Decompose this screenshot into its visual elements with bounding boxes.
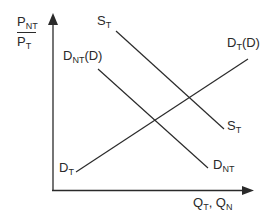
supply-demand-diagram — [0, 0, 272, 220]
x-label-2-base: Q — [216, 195, 226, 210]
label-sub: NT — [72, 55, 84, 65]
supply-tradables-start-label: ST — [97, 14, 111, 27]
demand-nontradables-start-label: DNT(D) — [63, 49, 102, 62]
label-base: D — [63, 48, 72, 63]
label-sub: T — [236, 125, 242, 135]
label-base: D — [213, 157, 222, 172]
y-label-num-base: P — [17, 14, 26, 29]
x-label-separator: , — [209, 195, 216, 210]
label-base: S — [97, 13, 106, 28]
y-axis-arrow-icon — [48, 13, 58, 25]
y-label-num-sub: NT — [26, 21, 38, 31]
label-base: S — [227, 118, 236, 133]
label-sub: T — [68, 167, 74, 177]
x-axis-label: QT, QN — [193, 196, 232, 209]
y-label-den-sub: T — [26, 41, 32, 51]
y-axis-label-denominator: PT — [17, 35, 31, 48]
supply-tradables-end-label: ST — [227, 119, 241, 132]
label-base: D — [59, 160, 68, 175]
label-suffix: (D) — [242, 35, 260, 50]
label-sub: T — [106, 20, 112, 30]
demand-tradables-top-label: DT(D) — [227, 36, 260, 49]
y-axis-label-numerator: PNT — [17, 15, 38, 28]
label-suffix: (D) — [84, 48, 102, 63]
y-label-den-base: P — [17, 34, 26, 49]
label-sub: NT — [222, 164, 234, 174]
demand-nontradables-end-label: DNT — [213, 158, 234, 171]
label-base: D — [227, 35, 236, 50]
demand-tradables-bottom-label: DT — [59, 161, 74, 174]
demand-tradables-curve — [76, 59, 248, 172]
x-axis-arrow-icon — [242, 186, 254, 195]
y-axis-fraction-bar — [17, 32, 36, 33]
x-label-1-base: Q — [193, 195, 203, 210]
x-label-2-sub: N — [226, 202, 233, 212]
supply-tradables-curve — [116, 31, 224, 129]
demand-nontradables-curve — [98, 69, 208, 168]
